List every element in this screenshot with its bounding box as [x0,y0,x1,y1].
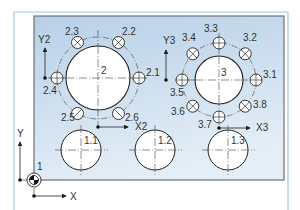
label-hole-2: 2 [101,65,107,76]
label-3-4: 3.4 [182,32,196,43]
row-holes: 1.1 1.2 1.3 [55,125,255,176]
axis-label-x3: X3 [256,122,269,133]
label-3-3: 3.3 [204,23,218,34]
axis-label-x2: X2 [135,121,148,132]
label-2-3: 2.3 [65,26,79,37]
hole-2-2 [113,37,125,49]
axis-label-y3: Y3 [163,35,176,46]
label-hole-3: 3 [221,67,227,78]
label-3-2: 3.2 [243,32,257,43]
label-2-4: 2.4 [43,85,57,96]
axis-label-y: Y [17,128,24,139]
hole-3-6 [187,100,199,112]
hole-3-7 [213,111,225,123]
hole-3-4 [187,48,199,60]
label-3-5: 3.5 [170,87,184,98]
technical-drawing: 2 2.1 2. [0,0,300,210]
axis-label-y2: Y2 [38,34,51,45]
hole-2-1 [133,72,145,84]
label-3-7: 3.7 [198,119,212,130]
hole-2-3 [72,37,84,49]
hole-3-8 [239,100,251,112]
hole-2-6 [113,108,125,120]
axis-label-x: X [70,191,77,202]
label-1-2: 1.2 [158,135,172,146]
label-1-1: 1.1 [84,135,98,146]
label-origin: 1 [37,161,43,172]
label-2-2: 2.2 [122,26,136,37]
hole-3-2 [239,48,251,60]
hole-3-3 [213,37,225,49]
hole-2-4 [51,72,63,84]
label-1-3: 1.3 [231,135,245,146]
label-3-8: 3.8 [253,99,267,110]
label-2-1: 2.1 [146,67,160,78]
label-2-5: 2.5 [61,112,75,123]
label-3-6: 3.6 [171,106,185,117]
label-3-1: 3.1 [263,69,277,80]
hole-3-1 [250,74,262,86]
hole-3-5 [176,74,188,86]
